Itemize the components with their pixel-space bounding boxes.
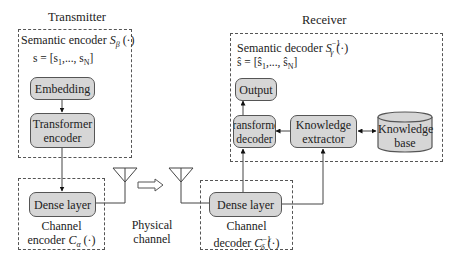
output-block: Output (235, 78, 277, 101)
knowledge-base-cylinder: Knowledge base (378, 122, 432, 150)
knowledge-extractor-label-1: Knowledge (296, 118, 351, 132)
knowledge-base-label-2: base (378, 136, 432, 150)
transformer-encoder-label-1: Transformer (33, 117, 93, 131)
knowledge-extractor-block: Knowledge extractor (290, 115, 357, 148)
channel-decoder-label: Channel decoder C−1δ (·) (200, 219, 293, 255)
knowledge-base-label-1: Knowledge (378, 122, 432, 136)
physical-channel-label: Physical channel (128, 218, 176, 246)
embedding-label: Embedding (35, 82, 90, 96)
transmission-arrow-icon (138, 179, 163, 191)
channel-encoder-label: Channel encoder Cα (·) (18, 219, 105, 252)
rx-antenna-icon (169, 166, 193, 184)
transformer-decoder-label-1: Transformer (233, 118, 276, 132)
tx-antenna-icon (113, 166, 137, 184)
semantic-decoder-vector: ŝ = [ŝ1,..., ŝN] (237, 55, 297, 74)
transformer-encoder-label-2: encoder (44, 131, 82, 145)
receiver-title: Receiver (302, 13, 346, 27)
output-label: Output (239, 83, 272, 97)
semantic-encoder-label: Semantic encoder Sβ (·) (21, 33, 135, 52)
knowledge-extractor-label-2: extractor (302, 132, 345, 146)
transmitter-title: Transmitter (48, 10, 106, 24)
transformer-decoder-label-2: decoder (236, 132, 272, 146)
dense-layer-rx-label: Dense layer (217, 198, 274, 212)
dense-layer-rx-block: Dense layer (209, 192, 282, 217)
transformer-decoder-block: Transformer decoder (233, 115, 276, 148)
transformer-encoder-block: Transformer encoder (30, 113, 95, 148)
embedding-block: Embedding (30, 77, 95, 100)
semantic-encoder-vector: s = [s1,..., sN] (33, 51, 93, 70)
dense-layer-tx-block: Dense layer (29, 192, 96, 217)
dense-layer-tx-label: Dense layer (34, 198, 91, 212)
